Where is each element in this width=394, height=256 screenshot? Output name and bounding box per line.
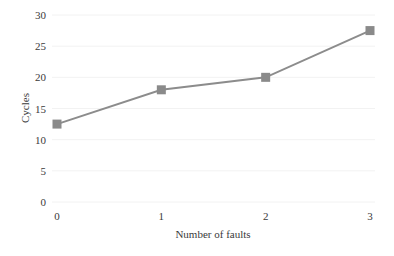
y-tick-label: 5 bbox=[41, 165, 47, 177]
x-tick-label: 2 bbox=[263, 210, 269, 222]
gridlines bbox=[52, 15, 375, 202]
y-tick-label: 10 bbox=[35, 134, 47, 146]
x-tick-label: 3 bbox=[367, 210, 373, 222]
y-axis-title: Cycles bbox=[19, 93, 31, 123]
x-axis-title: Number of faults bbox=[175, 228, 250, 240]
y-tick-label: 25 bbox=[35, 40, 47, 52]
data-point-marker bbox=[53, 120, 62, 129]
data-point-marker bbox=[157, 85, 166, 94]
y-tick-label: 30 bbox=[35, 9, 47, 21]
y-axis-ticks: 051015202530 bbox=[35, 9, 47, 208]
line-chart: 051015202530 0123 Cycles Number of fault… bbox=[0, 0, 394, 256]
y-tick-label: 20 bbox=[35, 71, 47, 83]
data-point-marker bbox=[366, 26, 375, 35]
y-tick-label: 0 bbox=[41, 196, 47, 208]
data-point-marker bbox=[261, 73, 270, 82]
y-tick-label: 15 bbox=[35, 103, 47, 115]
x-axis-ticks: 0123 bbox=[54, 210, 373, 222]
x-tick-label: 1 bbox=[159, 210, 165, 222]
x-tick-label: 0 bbox=[54, 210, 60, 222]
